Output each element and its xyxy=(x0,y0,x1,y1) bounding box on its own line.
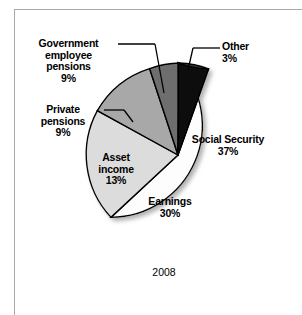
pie-value-social-security: 37% xyxy=(176,146,280,158)
pie-label-private-pensions: Private pensions 9% xyxy=(21,104,105,139)
pie-value-asset-income: 13% xyxy=(88,175,144,187)
pie-label-other: Other 3% xyxy=(222,41,274,64)
pie-label-other-name: Other xyxy=(222,41,274,53)
pie-chart: Government employee pensions 9% Private … xyxy=(0,0,302,315)
pie-label-private-pensions-line1: Private xyxy=(21,104,105,116)
chart-page: Government employee pensions 9% Private … xyxy=(0,0,302,315)
pie-label-government-pensions-line1: Government xyxy=(21,38,116,50)
pie-label-earnings: Earnings 30% xyxy=(136,196,204,219)
pie-label-government-pensions: Government employee pensions 9% xyxy=(21,38,116,84)
pie-label-asset-income: Asset income 13% xyxy=(88,152,144,187)
pie-value-other: 3% xyxy=(222,53,274,65)
pie-label-government-pensions-line3: pensions xyxy=(21,61,116,73)
pie-label-social-security-name: Social Security xyxy=(176,134,280,146)
pie-value-private-pensions: 9% xyxy=(21,127,105,139)
pie-label-social-security: Social Security 37% xyxy=(176,134,280,157)
pie-value-earnings: 30% xyxy=(136,208,204,220)
pie-label-earnings-name: Earnings xyxy=(136,196,204,208)
chart-year-caption: 2008 xyxy=(130,266,198,278)
pie-value-government-pensions: 9% xyxy=(21,73,116,85)
pie-label-asset-income-line1: Asset xyxy=(88,152,144,164)
